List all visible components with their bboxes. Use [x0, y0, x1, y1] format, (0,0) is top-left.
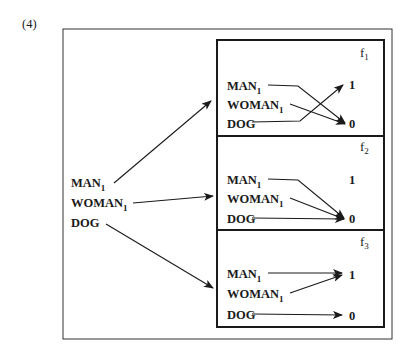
f2-man: MAN1 — [227, 173, 262, 190]
arrow-to-f3 — [106, 224, 213, 288]
f2-dog: DOG — [227, 212, 256, 226]
domain-list: MAN1 WOMAN1 DOG — [71, 176, 128, 230]
f1-man: MAN1 — [227, 79, 262, 96]
f1-value-1: 1 — [349, 78, 355, 92]
f2-value-0: 0 — [349, 212, 355, 226]
domain-woman: WOMAN1 — [71, 196, 128, 213]
f1-man-to-0 — [268, 85, 345, 123]
f1-label: f1 — [360, 45, 369, 62]
f2-label: f2 — [360, 139, 369, 156]
function-mapping-diagram: (4) MAN1 WOMAN1 DOG f1 MAN1 WOMAN1 DOG 1… — [0, 0, 411, 356]
f2-woman-to-0 — [290, 198, 344, 219]
domain-man: MAN1 — [71, 176, 106, 193]
figure-number: (4) — [22, 17, 37, 31]
f3-value-1: 1 — [349, 268, 355, 282]
f3-woman-to-1 — [290, 275, 342, 293]
arrow-to-f1 — [114, 101, 211, 183]
f3-label: f3 — [360, 234, 369, 251]
f2-woman: WOMAN1 — [227, 192, 284, 209]
f3-man: MAN1 — [227, 267, 262, 284]
f2-dog-to-0 — [252, 218, 344, 219]
domain-dog: DOG — [71, 216, 100, 230]
f3-value-0: 0 — [349, 309, 355, 323]
f3-dog-to-0 — [252, 314, 342, 315]
f1-value-0: 0 — [349, 117, 355, 131]
function-box-f3: f3 MAN1 WOMAN1 DOG 1 0 — [227, 234, 369, 323]
f1-dog: DOG — [227, 117, 256, 131]
function-box-f1: f1 MAN1 WOMAN1 DOG 1 0 — [227, 45, 369, 131]
function-box-f2: f2 MAN1 WOMAN1 DOG 1 0 — [227, 139, 369, 226]
f3-dog: DOG — [227, 308, 256, 322]
arrow-to-f2 — [133, 196, 213, 203]
f1-woman: WOMAN1 — [227, 98, 284, 115]
f2-value-1: 1 — [349, 173, 355, 187]
f3-woman: WOMAN1 — [227, 287, 284, 304]
